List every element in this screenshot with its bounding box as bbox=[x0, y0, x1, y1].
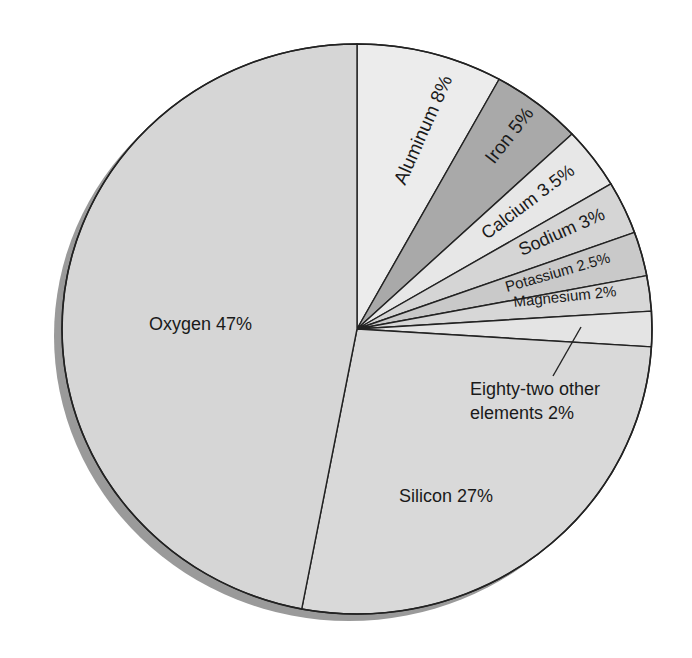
element-abundance-pie-chart: Aluminum 8% Iron 5% Calcium 3.5% Sodium … bbox=[0, 0, 692, 658]
label-other-line1: Eighty-two other bbox=[470, 379, 600, 399]
label-silicon: Silicon 27% bbox=[399, 486, 493, 506]
pie-slice-silicon bbox=[302, 329, 652, 614]
label-other-line2: elements 2% bbox=[470, 403, 574, 423]
label-oxygen: Oxygen 47% bbox=[149, 314, 252, 334]
